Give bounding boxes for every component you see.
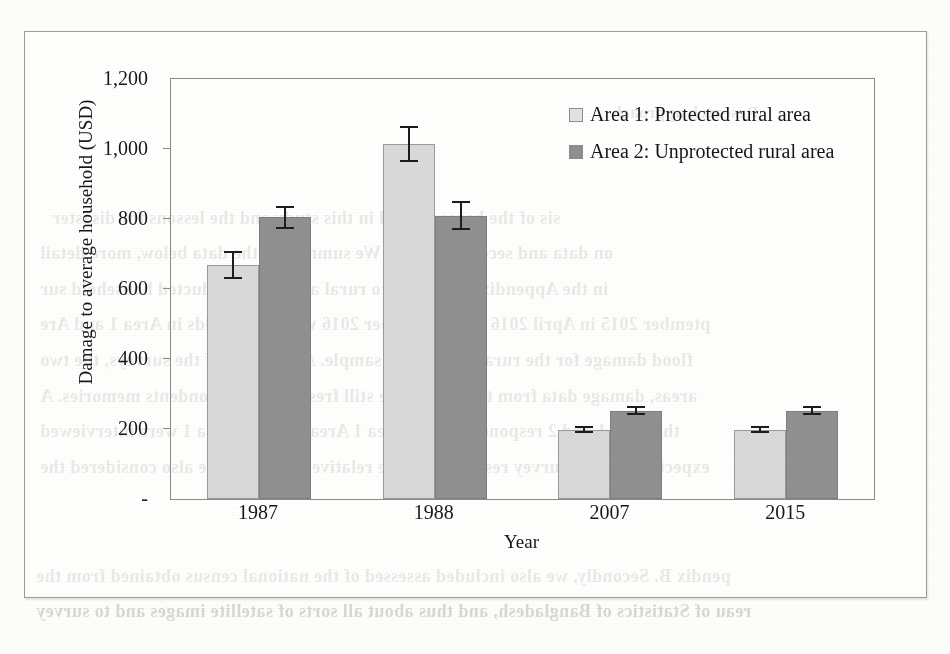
error-bar-cap xyxy=(452,228,470,230)
y-tick-mark xyxy=(163,428,170,429)
bar-chart: Damage to average household (USD) 1,2001… xyxy=(24,31,925,596)
error-bar-cap xyxy=(803,413,821,415)
error-bar xyxy=(284,206,286,229)
error-bar-cap xyxy=(751,426,769,428)
legend-label-area-2: Area 2: Unprotected rural area xyxy=(590,140,834,163)
error-bar-cap xyxy=(276,227,294,229)
bar-1987-series1[interactable] xyxy=(207,265,259,500)
error-bar-cap xyxy=(224,277,242,279)
y-tick-label: 800 xyxy=(118,207,148,230)
legend-swatch-area-1 xyxy=(569,108,583,122)
y-tick-label: 200 xyxy=(118,417,148,440)
x-axis-title: Year xyxy=(170,531,873,553)
y-tick-mark xyxy=(163,148,170,149)
y-tick-label: 400 xyxy=(118,347,148,370)
legend-swatch-area-2 xyxy=(569,145,583,159)
error-bar-cap xyxy=(400,160,418,162)
error-bar xyxy=(232,251,234,279)
y-tick-label: - xyxy=(141,487,148,510)
bar-1988-series2[interactable] xyxy=(435,216,487,500)
x-tick-label: 2007 xyxy=(522,501,698,531)
x-tick-label: 1988 xyxy=(346,501,522,531)
error-bar-cap xyxy=(224,251,242,253)
error-bar-cap xyxy=(276,206,294,208)
error-bar-cap xyxy=(575,426,593,428)
error-bar-cap xyxy=(803,406,821,408)
bar-1987-series2[interactable] xyxy=(259,217,311,499)
legend-item-area-1[interactable]: Area 1: Protected rural area xyxy=(569,103,834,126)
x-axis-tick-labels: 1987198820072015 xyxy=(170,501,873,531)
bar-slot xyxy=(435,79,487,499)
x-tick-label: 1987 xyxy=(170,501,346,531)
bar-group xyxy=(171,79,347,499)
y-axis-tick-labels: 1,2001,000800600400200- xyxy=(24,78,162,498)
y-tick-mark xyxy=(163,358,170,359)
y-tick-label: 1,200 xyxy=(103,67,148,90)
y-tick-mark xyxy=(163,218,170,219)
bar-2015-series2[interactable] xyxy=(786,411,838,499)
legend-item-area-2[interactable]: Area 2: Unprotected rural area xyxy=(569,140,834,163)
bleedthrough-line: reau of Statistics of Bangladesh, and th… xyxy=(36,601,752,622)
bar-slot xyxy=(207,79,259,499)
plot-area: Area 1: Protected rural area Area 2: Unp… xyxy=(170,78,875,500)
bar-group xyxy=(347,79,523,499)
y-tick-mark xyxy=(163,288,170,289)
error-bar xyxy=(460,201,462,230)
error-bar-cap xyxy=(575,431,593,433)
bar-1988-series1[interactable] xyxy=(383,144,435,499)
chart-legend: Area 1: Protected rural area Area 2: Unp… xyxy=(569,103,834,163)
error-bar xyxy=(408,126,410,162)
error-bar-cap xyxy=(452,201,470,203)
error-bar-cap xyxy=(751,431,769,433)
y-tick-label: 600 xyxy=(118,277,148,300)
bar-2015-series1[interactable] xyxy=(734,430,786,499)
x-tick-label: 2015 xyxy=(697,501,873,531)
bar-2007-series1[interactable] xyxy=(558,430,610,499)
legend-label-area-1: Area 1: Protected rural area xyxy=(590,103,811,126)
error-bar-cap xyxy=(627,413,645,415)
bar-2007-series2[interactable] xyxy=(610,411,662,499)
bar-slot xyxy=(259,79,311,499)
error-bar-cap xyxy=(627,406,645,408)
bar-slot xyxy=(383,79,435,499)
y-tick-label: 1,000 xyxy=(103,137,148,160)
error-bar-cap xyxy=(400,126,418,128)
